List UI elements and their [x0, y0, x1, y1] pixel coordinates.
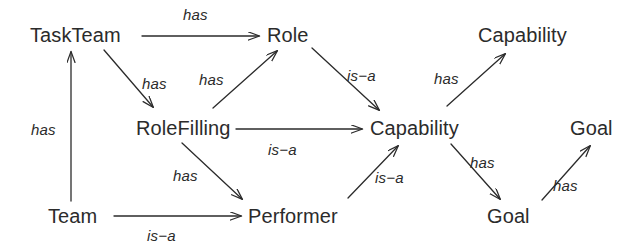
- node-role: Role: [267, 25, 309, 45]
- edge-label-performer-to-capability_mid: is−a: [375, 170, 404, 185]
- node-capability_top: Capability: [478, 25, 567, 45]
- node-rolefilling: RoleFilling: [136, 118, 230, 138]
- edge-label-capability_mid-to-goal_bottom: has: [470, 155, 495, 170]
- node-goal_bottom: Goal: [487, 206, 530, 226]
- node-goal_right: Goal: [570, 118, 613, 138]
- edge-label-role-to-capability_mid: is−a: [347, 68, 376, 83]
- node-capability_mid: Capability: [370, 118, 459, 138]
- edge-label-team-to-performer: is−a: [147, 228, 176, 243]
- edge-label-rolefilling-to-capability_mid: is−a: [268, 142, 297, 157]
- edge-label-team-to-taskteam: has: [31, 122, 56, 137]
- edge-label-taskteam-to-role: has: [183, 7, 208, 22]
- node-taskteam: TaskTeam: [30, 25, 121, 45]
- node-performer: Performer: [248, 206, 338, 226]
- edge-label-rolefilling-to-role: has: [199, 72, 224, 87]
- edge-label-goal_bottom-to-goal_right: has: [553, 178, 578, 193]
- node-team: Team: [48, 206, 97, 226]
- edge-label-taskteam-to-rolefilling: has: [142, 76, 167, 91]
- edge-label-rolefilling-to-performer: has: [173, 168, 198, 183]
- edge-label-capability_mid-to-capability_top: has: [434, 71, 459, 86]
- edge-arrow-capability_mid-to-goal_bottom: [451, 144, 500, 199]
- ontology-diagram: TaskTeamRoleCapabilityRoleFillingCapabil…: [0, 0, 643, 251]
